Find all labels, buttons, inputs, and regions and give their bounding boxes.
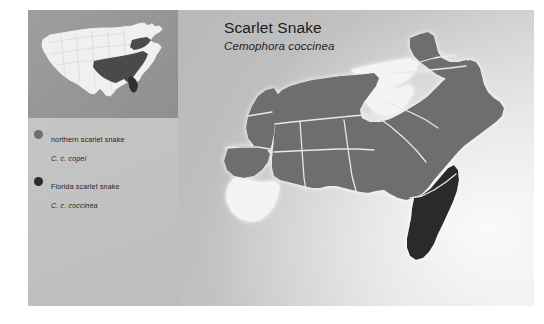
circle-swatch-icon [34,130,43,139]
circle-swatch-icon [34,177,43,186]
range-northern-west-arm [246,88,278,150]
legend-common-name: northern scarlet snake [51,136,125,144]
range-map-figure: northern scarlet snake C. c. copei Flori… [0,0,544,324]
legend-item-florida: Florida scarlet snake C. c. coccinea [34,175,174,213]
legend: northern scarlet snake C. c. copei Flori… [34,128,174,222]
legend-scientific-name: C. c. copei [51,155,86,163]
legend-common-name: Florida scarlet snake [51,183,120,191]
state-southern-louisiana-unshaded [226,178,280,222]
southeastern-united-states-range-map [214,18,534,303]
range-northern-louisiana [224,146,270,178]
united-states-locator-map [28,10,178,118]
legend-scientific-name: C. c. coccinea [51,202,98,210]
legend-item-northern: northern scarlet snake C. c. copei [34,128,174,166]
